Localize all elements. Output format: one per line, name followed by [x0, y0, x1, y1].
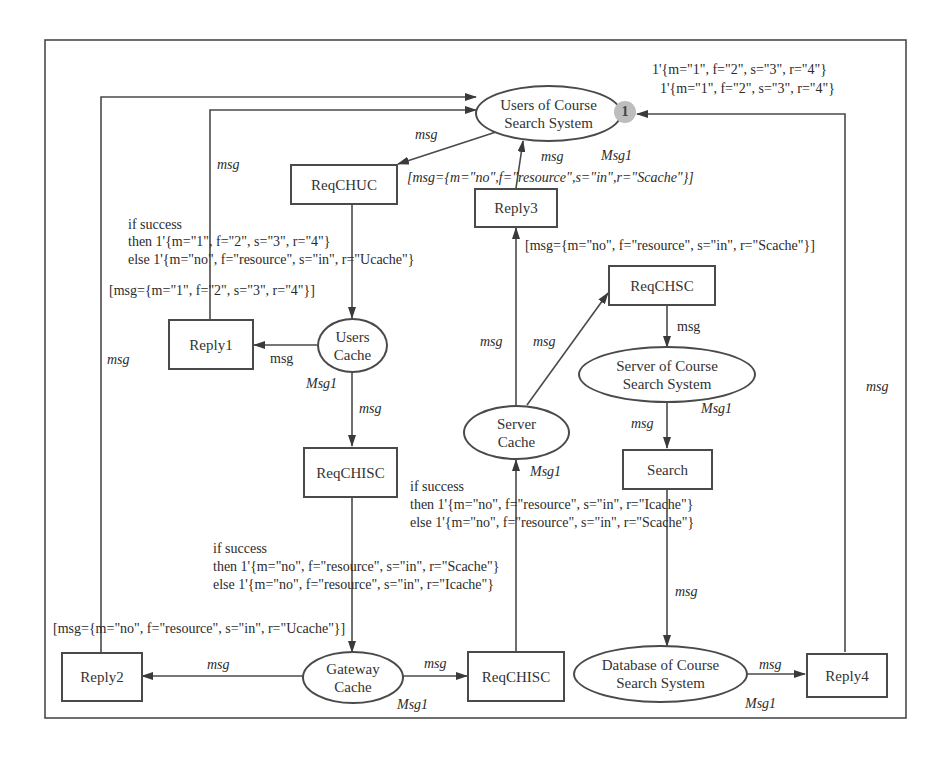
arc-label-msg1: Msg1 [530, 463, 561, 480]
arc-label-msg: msg [759, 656, 782, 673]
token-count-badge: 1 [614, 101, 636, 123]
transition-search: Search [622, 449, 713, 490]
transition-reply3: Reply3 [474, 188, 558, 228]
transition-reply4: Reply4 [806, 653, 888, 698]
place-users-cache-label: Users Cache [317, 318, 388, 373]
guard-reply2: [msg={m="no", f="resource", s="in", r="U… [53, 620, 345, 638]
arc-label-msg: msg [415, 126, 438, 143]
expr-reqchisc-else: else 1'{m="no", f="resource", s="in", r=… [213, 576, 494, 594]
place-server-cache-label: Server Cache [463, 405, 570, 460]
place-users-line2: Search System [504, 114, 593, 132]
guard-reply1: [msg={m="1", f="2", s="3", r="4"}] [109, 282, 315, 300]
place-users-label: Users of Course Search System [475, 85, 622, 142]
place-database-label: Database of Course Search System [573, 645, 748, 703]
expr-reqchisc-then: then 1'{m="no", f="resource", s="in", r=… [213, 558, 499, 576]
expr-reqchuc-else: else 1'{m="no", f="resource", s="in", r=… [128, 251, 414, 269]
arc-label-msg: msg [533, 333, 556, 350]
arc-label-msg: msg [107, 351, 130, 368]
expr-reqchuc-then: then 1'{m="1", f="2", s="3", r="4"} [128, 233, 331, 251]
guard-reqchsc: [msg={m="no", f="resource", s="in", r="S… [525, 237, 815, 255]
arc-label-msg1: Msg1 [601, 147, 632, 164]
initial-marking-line2: 1'{m="1", f="2", s="3", r="4"} [660, 80, 835, 98]
arc-label-msg: msg [541, 148, 564, 165]
place-database-line1: Database of Course [602, 656, 719, 674]
transition-reply2: Reply2 [61, 652, 143, 702]
place-gateway-line1: Gateway [326, 660, 379, 678]
place-server-line1: Server of Course [616, 357, 718, 375]
arc-label-msg: msg [675, 583, 698, 600]
transition-reqchsc: ReqCHSC [608, 265, 716, 306]
arc-label-msg: msg [207, 656, 230, 673]
arc-label-msg: msg [424, 655, 447, 672]
place-gateway-line2: Cache [334, 678, 371, 696]
place-server-line2: Search System [623, 375, 712, 393]
transition-reqchuc: ReqCHUC [290, 164, 398, 205]
arc-label-msg1: Msg1 [306, 375, 337, 392]
transition-reply1: Reply1 [168, 319, 254, 370]
transition-reqchisc-bottom: ReqCHISC [467, 651, 565, 702]
place-users-line1: Users of Course [500, 96, 597, 114]
guard-reply3: [msg={m="no",f="resource",s="in",r="Scac… [407, 169, 694, 187]
place-server-label: Server of Course Search System [578, 346, 756, 403]
arc-label-msg: msg [631, 415, 654, 432]
arc-label-msg1: Msg1 [745, 695, 776, 712]
place-users-cache-line1: Users [335, 328, 369, 346]
arc-label-msg: msg [677, 318, 700, 335]
arc-label-msg1: Msg1 [397, 696, 428, 713]
arc-label-msg: msg [270, 350, 293, 367]
expr-reqchisc-if: if success [213, 540, 267, 558]
expr-reqchuc-if: if success [128, 216, 182, 234]
expr-reqchisc2-then: then 1'{m="no", f="resource", s="in", r=… [410, 496, 693, 514]
transition-reqchisc-top: ReqCHISC [303, 447, 398, 498]
initial-marking-line1: 1'{m="1", f="2", s="3", r="4"} [652, 61, 827, 79]
arc-label-msg: msg [866, 378, 889, 395]
place-server-cache-line2: Cache [498, 433, 535, 451]
arc-label-msg: msg [217, 156, 240, 173]
expr-reqchisc2-else: else 1'{m="no", f="resource", s="in", r=… [410, 514, 694, 532]
arc-label-msg1: Msg1 [701, 400, 732, 417]
arc-label-msg: msg [480, 333, 503, 350]
place-server-cache-line1: Server [497, 415, 536, 433]
arc-label-msg: msg [359, 400, 382, 417]
place-database-line2: Search System [616, 674, 705, 692]
place-users-cache-line2: Cache [334, 346, 371, 364]
place-gateway-cache-label: Gateway Cache [302, 651, 404, 704]
expr-reqchisc2-if: if success [410, 478, 464, 496]
